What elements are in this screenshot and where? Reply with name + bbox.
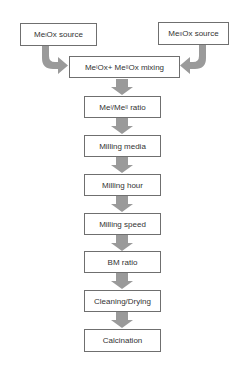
source-box-me1: MeIOx source	[20, 23, 97, 46]
step-milling-media: Milling media	[84, 135, 161, 157]
step-bm-ratio: BM ratio	[84, 251, 161, 273]
source-box-me2: MeIIOx source	[158, 22, 229, 45]
ratio-box: MeI/MeII ratio	[84, 96, 161, 118]
down-arrow-icon	[110, 273, 134, 289]
curved-arrow-left-icon	[38, 46, 70, 78]
step-milling-speed: Milling speed	[84, 213, 161, 235]
down-arrow-icon	[110, 157, 134, 173]
down-arrow-icon	[110, 118, 134, 134]
down-arrow-icon	[110, 79, 134, 95]
down-arrow-icon	[110, 235, 134, 251]
down-arrow-icon	[110, 312, 134, 328]
step-cleaning-drying: Cleaning/Drying	[84, 290, 161, 312]
down-arrow-icon	[110, 196, 134, 212]
step-milling-hour: Milling hour	[84, 174, 161, 196]
step-calcination: Calcination	[84, 329, 161, 352]
curved-arrow-right-icon	[180, 45, 210, 78]
mixing-box: MeIOx+ MeIIOx mixing	[69, 56, 180, 78]
